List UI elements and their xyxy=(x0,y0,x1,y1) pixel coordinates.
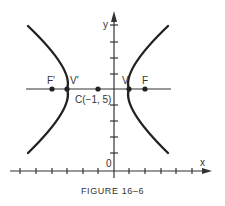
focus-left-point xyxy=(49,86,54,91)
hyperbola-figure: y x 0 F′ V′ C(−1, 5) V F xyxy=(0,0,225,206)
focus-right-label: F xyxy=(142,75,148,86)
figure-caption: FIGURE 16–6 xyxy=(0,186,225,196)
center-point xyxy=(95,86,100,91)
x-axis-label: x xyxy=(200,157,205,168)
vertex-right-label: V xyxy=(122,75,129,86)
x-axis-arrow-icon xyxy=(202,168,212,174)
y-axis-arrow-icon xyxy=(111,11,117,22)
vertex-left-label: V′ xyxy=(70,75,79,86)
origin-label: 0 xyxy=(106,158,112,169)
center-label: C(−1, 5) xyxy=(75,94,111,105)
vertex-left-point xyxy=(64,86,69,91)
focus-left-label: F′ xyxy=(47,75,55,86)
vertex-right-point xyxy=(126,86,131,91)
focus-right-point xyxy=(142,86,147,91)
y-axis-label: y xyxy=(103,19,108,30)
